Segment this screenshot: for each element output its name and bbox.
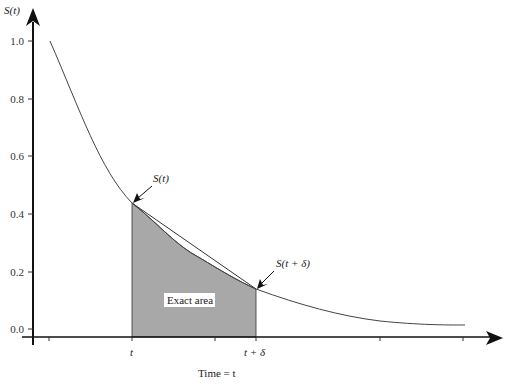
survival-curve bbox=[50, 41, 465, 325]
annotation-s-t-delta-arrow bbox=[262, 271, 274, 283]
annotation-s-t-delta: S(t + δ) bbox=[276, 257, 310, 270]
survival-chart: 1.0 0.8 0.6 0.4 0.2 0.0 S(t) t t + δ Tim… bbox=[0, 0, 507, 389]
y-tick-1.0: 1.0 bbox=[10, 35, 24, 47]
exact-area-region bbox=[132, 203, 256, 337]
y-axis-label: S(t) bbox=[4, 4, 20, 17]
x-axis-label: Time = t bbox=[198, 367, 236, 379]
arrowhead-icon bbox=[257, 279, 268, 289]
y-tick-0.0: 0.0 bbox=[10, 323, 24, 335]
x-tick-t-delta: t + δ bbox=[244, 346, 266, 358]
y-tick-0.8: 0.8 bbox=[10, 93, 24, 105]
y-tick-0.2: 0.2 bbox=[10, 266, 24, 278]
annotation-s-t-arrow bbox=[138, 186, 152, 198]
y-tick-0.4: 0.4 bbox=[10, 208, 24, 220]
y-tick-0.6: 0.6 bbox=[10, 150, 24, 162]
x-tick-t: t bbox=[130, 346, 134, 358]
x-axis-arrow-icon bbox=[486, 331, 503, 345]
exact-area-label: Exact area bbox=[167, 294, 213, 306]
arrowhead-icon bbox=[133, 193, 145, 203]
annotation-s-t: S(t) bbox=[153, 172, 169, 185]
